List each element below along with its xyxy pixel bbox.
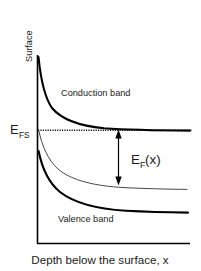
band-gap-arrow-head-down [115, 177, 121, 186]
fermi-surface-label-subscript: FS [19, 130, 30, 140]
valence-band-curve [39, 151, 188, 213]
fermi-depth-label-main: E [131, 152, 140, 167]
conduction-band-label: Conduction band [61, 88, 130, 98]
fermi-depth-label-argument: (x) [145, 152, 161, 167]
band-gap-arrow-head-up [115, 130, 121, 139]
x-axis-label: Depth below the surface, x [31, 253, 168, 266]
y-axis-label: Surface [24, 30, 34, 62]
fermi-surface-label-main: E [10, 122, 19, 137]
fermi-depth-curve [39, 131, 187, 190]
band-bending-figure: Surface Conduction band Valence band E F… [0, 0, 201, 271]
band-diagram-svg: Surface Conduction band Valence band E F… [0, 0, 201, 271]
valence-band-label: Valence band [58, 214, 114, 224]
